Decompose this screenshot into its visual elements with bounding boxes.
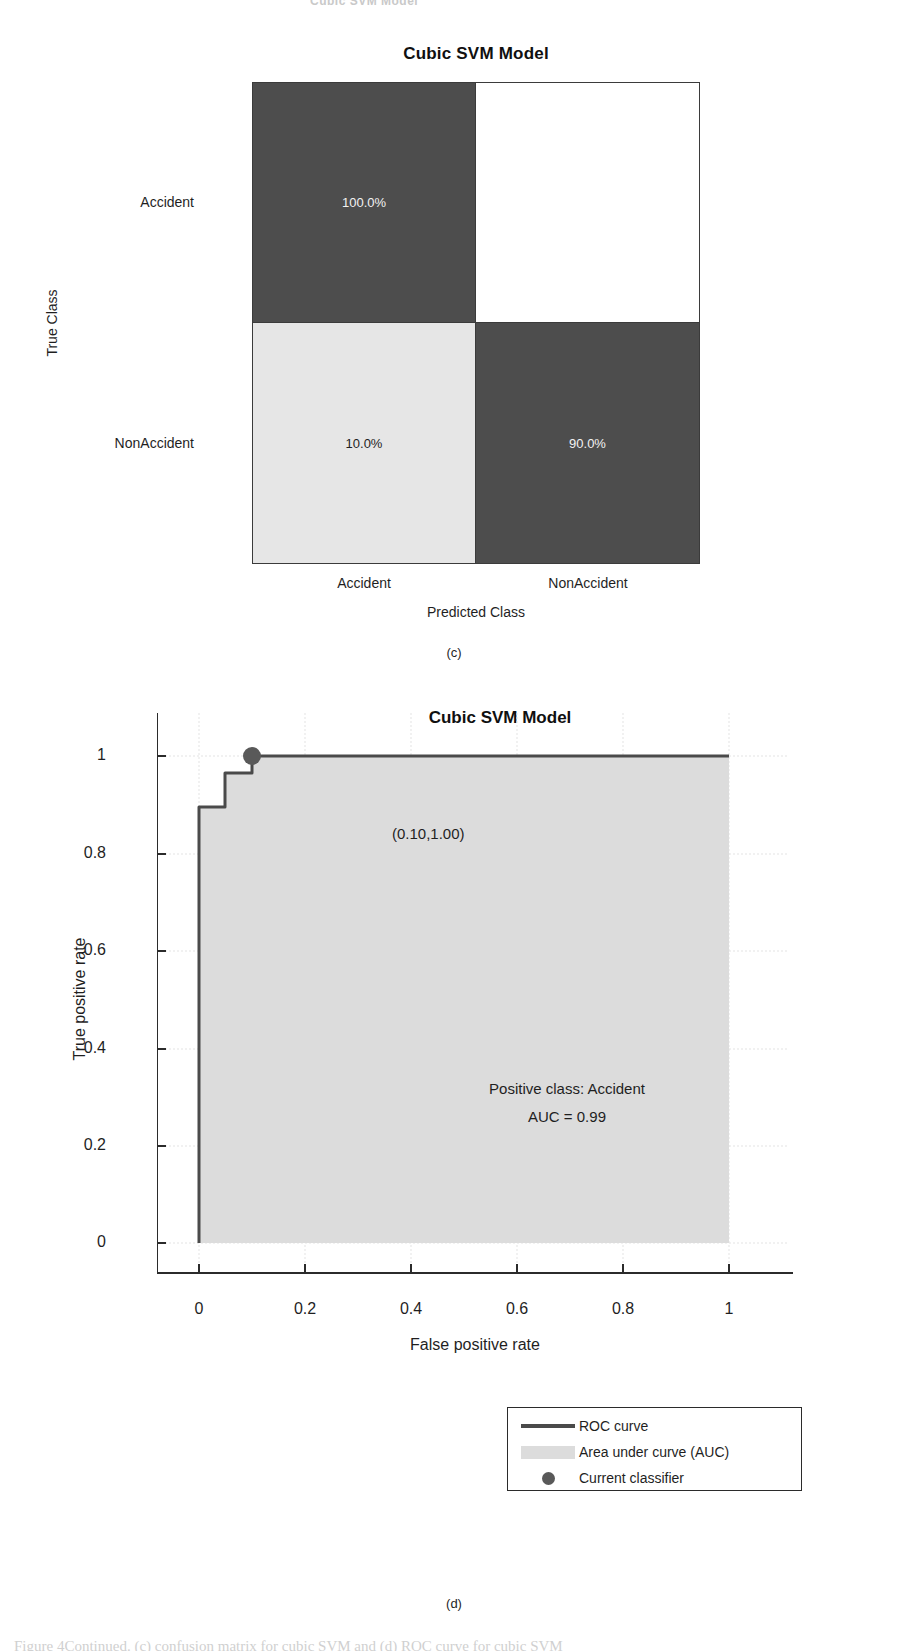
legend-item-current-classifier[interactable]: Current classifier — [508, 1465, 801, 1491]
cm-row-label-accident: Accident — [14, 194, 194, 210]
legend-label-roc-curve: ROC curve — [579, 1418, 648, 1434]
panel-d-sublabel: (d) — [0, 1596, 908, 1611]
roc-y-axis-label: True positive rate — [71, 789, 89, 1209]
roc-legend[interactable]: ROC curve Area under curve (AUC) Current… — [507, 1407, 802, 1491]
cm-col-label-accident: Accident — [252, 575, 476, 591]
cm-cell-nonaccident-accident[interactable]: 10.0% — [253, 323, 476, 563]
roc-xtick-0.4: 0.4 — [371, 1300, 451, 1318]
roc-ytick-0: 0 — [26, 1233, 106, 1251]
cm-cell-accident-accident[interactable]: 100.0% — [253, 83, 476, 323]
roc-xtick-0.8: 0.8 — [583, 1300, 663, 1318]
roc-ytick-0.6: 0.6 — [26, 941, 106, 959]
roc-x-axis-label: False positive rate — [157, 1336, 793, 1354]
cm-cell-accident-nonaccident[interactable] — [476, 83, 699, 323]
cm-row-label-nonaccident: NonAccident — [14, 435, 194, 451]
roc-positive-class-text: Positive class: Accident — [407, 1075, 727, 1103]
legend-item-auc-area[interactable]: Area under curve (AUC) — [508, 1439, 801, 1465]
roc-plot-area: (0.10,1.00) Positive class: Accident AUC… — [157, 713, 793, 1287]
roc-xtick-0.6: 0.6 — [477, 1300, 557, 1318]
current-classifier-dot-icon — [517, 1472, 579, 1485]
current-classifier-marker — [243, 747, 261, 765]
roc-plot-svg — [157, 713, 793, 1287]
confusion-matrix-title: Cubic SVM Model — [252, 44, 700, 64]
roc-xtick-1: 1 — [689, 1300, 769, 1318]
cm-cell-nonaccident-nonaccident[interactable]: 90.0% — [476, 323, 699, 563]
roc-annotation: Positive class: Accident AUC = 0.99 — [407, 1075, 727, 1131]
roc-ytick-0.8: 0.8 — [26, 844, 106, 862]
roc-ytick-0.4: 0.4 — [26, 1039, 106, 1057]
legend-label-current-classifier: Current classifier — [579, 1470, 684, 1486]
legend-label-auc-area: Area under curve (AUC) — [579, 1444, 729, 1460]
legend-item-roc-curve[interactable]: ROC curve — [508, 1413, 801, 1439]
roc-xtick-0: 0 — [159, 1300, 239, 1318]
roc-curve-figure: Cubic SVM Model — [0, 660, 908, 1620]
confusion-matrix-x-axis-label: Predicted Class — [252, 604, 700, 620]
roc-ytick-0.2: 0.2 — [26, 1136, 106, 1154]
figure-caption: Figure 4Continued. (c) confusion matrix … — [0, 1638, 908, 1651]
roc-xtick-0.2: 0.2 — [265, 1300, 345, 1318]
roc-ytick-1: 1 — [26, 746, 106, 764]
current-classifier-point-label: (0.10,1.00) — [392, 825, 465, 842]
roc-auc-text: AUC = 0.99 — [407, 1103, 727, 1131]
confusion-matrix-y-axis-label: True Class — [44, 223, 60, 423]
confusion-matrix-figure: Cubic SVM Model 100.0% 10.0% 90.0% Accid… — [0, 0, 908, 660]
cm-col-label-nonaccident: NonAccident — [476, 575, 700, 591]
roc-curve-line-icon — [517, 1424, 579, 1428]
auc-area-patch-icon — [517, 1446, 579, 1459]
confusion-matrix-grid: 100.0% 10.0% 90.0% — [252, 82, 700, 564]
panel-c-sublabel: (c) — [0, 645, 908, 660]
